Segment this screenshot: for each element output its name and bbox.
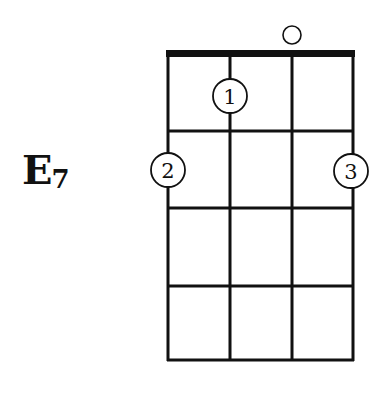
finger-label: 1 <box>223 85 236 109</box>
finger-marker-1: 1 <box>213 79 247 113</box>
chord-diagram: 1 2 3 <box>0 0 389 397</box>
finger-marker-2: 2 <box>151 153 185 187</box>
finger-marker-3: 3 <box>334 154 368 188</box>
finger-label: 3 <box>344 160 357 184</box>
frets <box>167 131 354 360</box>
finger-label: 2 <box>161 159 174 183</box>
nut <box>166 50 355 57</box>
open-string-marker-icon <box>283 26 301 44</box>
